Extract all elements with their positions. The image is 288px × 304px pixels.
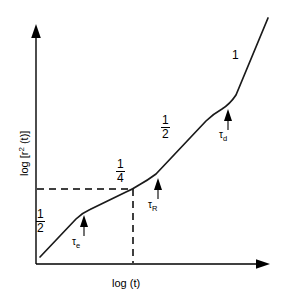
slope-label-regime-2: 1 4	[116, 158, 125, 184]
y-axis-title: log [r2 (t)]	[18, 113, 31, 193]
reptation-msd-figure: log [r2 (t)] log (t) 1 2 1 4 1 2 1 τe τR…	[0, 0, 288, 304]
slope-label-regime-1: 1 2	[36, 208, 45, 234]
tau-e-subscript: e	[76, 241, 80, 250]
tau-d-subscript: d	[223, 134, 227, 143]
slope-1-numerator: 1	[36, 208, 45, 221]
slope-label-regime-3: 1 2	[161, 114, 170, 140]
x-axis-title: log (t)	[112, 278, 140, 289]
y-axis-title-prefix: log [r	[18, 152, 30, 176]
y-axis-title-suffix: (t)]	[18, 131, 30, 148]
plot-canvas	[0, 0, 288, 304]
tau-e-arrow-head-icon	[80, 215, 88, 227]
arrow-right-icon	[256, 259, 270, 269]
slope-3-denominator: 2	[161, 127, 170, 141]
slope-3-numerator: 1	[161, 114, 170, 127]
tau-e-label: τe	[72, 237, 80, 250]
slope-2-denominator: 4	[116, 171, 125, 185]
tau-R-label: τR	[148, 200, 157, 213]
slope-1-denominator: 2	[36, 221, 45, 235]
arrow-up-icon	[31, 24, 41, 38]
tau-d-arrow-head-icon	[224, 109, 232, 121]
y-axis-title-exponent: 2	[17, 147, 26, 151]
tau-d-label: τd	[219, 130, 227, 143]
slope-label-regime-4: 1	[232, 49, 239, 61]
tau-R-subscript: R	[152, 204, 157, 213]
slope-2-numerator: 1	[116, 158, 125, 171]
tau-R-arrow-head-icon	[154, 178, 162, 190]
